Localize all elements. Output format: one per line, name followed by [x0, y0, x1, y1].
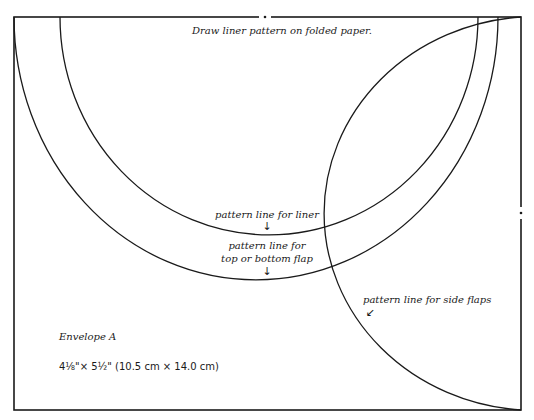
- flap-arrow-icon: ↓: [262, 266, 271, 277]
- envelope-size: 4⅛"× 5½" (10.5 cm × 14.0 cm): [59, 361, 219, 372]
- top-fold-mark-dot: [264, 16, 267, 19]
- liner-arrow-icon: ↓: [262, 221, 271, 232]
- flap-label-line1: pattern line for: [228, 239, 305, 252]
- liner-arc: [60, 17, 478, 235]
- right-fold-mark-dot: [520, 212, 523, 215]
- side-flaps-label: pattern line for side flaps: [363, 293, 491, 306]
- envelope-name: Envelope A: [59, 330, 116, 343]
- side-flaps-arrow-icon: ↙: [365, 307, 374, 318]
- flap-label-line2: top or bottom flap: [221, 252, 313, 265]
- instruction-title: Draw liner pattern on folded paper.: [192, 24, 372, 37]
